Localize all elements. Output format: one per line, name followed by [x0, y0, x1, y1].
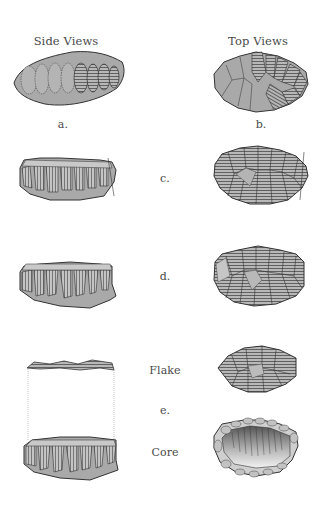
label-a: a. [58, 118, 68, 131]
lithic-diagram [0, 0, 325, 507]
label-core: Core [151, 446, 178, 459]
top-view-c [214, 146, 308, 204]
side-view-core [24, 437, 118, 480]
label-b: b. [256, 118, 267, 131]
label-c: c. [160, 172, 170, 185]
label-d: d. [160, 270, 171, 283]
top-view-core [214, 418, 298, 477]
top-view-b [214, 52, 308, 112]
top-view-d [214, 246, 304, 306]
side-view-d [20, 262, 116, 308]
top-view-flake [218, 346, 296, 392]
label-e: e. [160, 404, 170, 417]
label-flake: Flake [149, 364, 180, 377]
side-view-c [20, 158, 116, 200]
side-view-flake [27, 360, 114, 440]
side-view-a [14, 52, 124, 105]
